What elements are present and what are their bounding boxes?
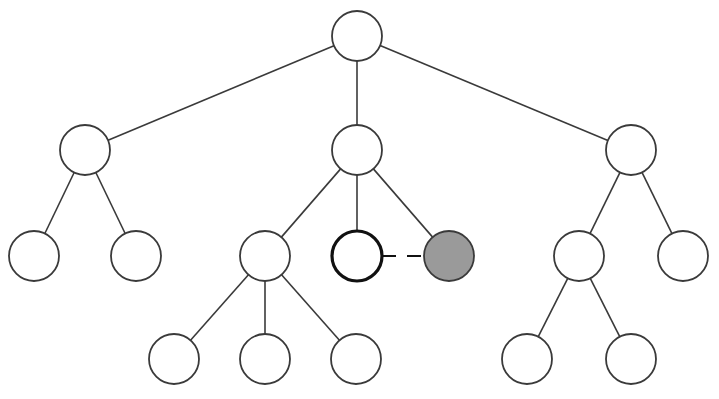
tree-node bbox=[658, 231, 708, 281]
tree-edge bbox=[642, 172, 672, 233]
tree-node bbox=[332, 125, 382, 175]
tree-node bbox=[331, 334, 381, 384]
tree-node bbox=[606, 125, 656, 175]
tree-node bbox=[606, 334, 656, 384]
tree-node bbox=[554, 231, 604, 281]
tree-node bbox=[149, 334, 199, 384]
tree-edge bbox=[373, 169, 432, 237]
tree-node bbox=[240, 231, 290, 281]
filled-node bbox=[424, 231, 474, 281]
tree-diagram bbox=[0, 0, 719, 399]
tree-node bbox=[332, 11, 382, 61]
tree-node bbox=[111, 231, 161, 281]
tree-edge bbox=[45, 173, 74, 234]
tree-edge bbox=[380, 46, 608, 141]
nodes-layer bbox=[9, 11, 708, 384]
tree-node bbox=[240, 334, 290, 384]
tree-edge bbox=[191, 275, 249, 341]
tree-node bbox=[60, 125, 110, 175]
tree-edge bbox=[96, 173, 125, 234]
tree-diagram-svg bbox=[0, 0, 719, 399]
edges-layer bbox=[45, 46, 672, 341]
selected-node bbox=[332, 231, 382, 281]
tree-edge bbox=[108, 46, 334, 141]
tree-edge bbox=[590, 172, 620, 233]
tree-edge bbox=[282, 275, 340, 341]
tree-edge bbox=[590, 278, 619, 336]
tree-edge bbox=[538, 278, 567, 336]
tree-edge bbox=[281, 169, 340, 237]
tree-node bbox=[9, 231, 59, 281]
tree-node bbox=[502, 334, 552, 384]
